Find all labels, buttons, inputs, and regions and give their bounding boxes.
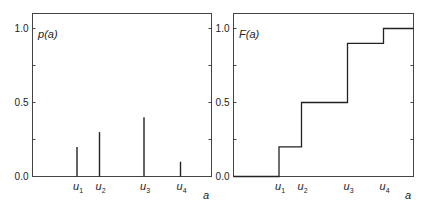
left-x-label: a <box>203 189 209 201</box>
x-tick-label: u4 <box>177 180 187 194</box>
right-x-axis: u1u2u3u4 <box>275 180 390 194</box>
left-function-label: p(a) <box>37 28 58 40</box>
x-tick-label: u1 <box>275 180 285 194</box>
left-x-axis: u1u2u3u4 <box>73 180 187 194</box>
y-tick-label: 0.0 <box>15 171 29 182</box>
x-tick-label: u1 <box>73 180 83 194</box>
x-tick-label: u3 <box>344 180 354 194</box>
x-tick-label: u3 <box>140 180 150 194</box>
x-tick-label: u2 <box>96 180 106 194</box>
right-function-label: F(a) <box>239 28 260 40</box>
y-tick-label: 0.5 <box>216 97 230 108</box>
y-tick-label: 1.0 <box>15 23 29 34</box>
left-stems <box>77 117 181 176</box>
left-plot-frame <box>33 14 212 177</box>
y-tick-label: 0.5 <box>15 97 29 108</box>
pmf-chart: 1.00.50.0 u1u2u3u4 p(a) a <box>15 14 212 202</box>
cdf-chart: 1.00.50.0 u1u2u3u4 F(a) a <box>216 14 414 202</box>
right-x-label: a <box>405 189 411 201</box>
x-tick-label: u2 <box>298 180 308 194</box>
cdf-step-line <box>234 29 414 177</box>
y-tick-label: 1.0 <box>216 23 230 34</box>
figure: 1.00.50.0 u1u2u3u4 p(a) a 1.00.50.0 u1u2… <box>0 0 427 202</box>
y-tick-label: 0.0 <box>216 171 230 182</box>
right-plot-frame <box>234 14 414 177</box>
left-y-axis: 1.00.50.0 <box>15 23 212 182</box>
x-tick-label: u4 <box>380 180 390 194</box>
